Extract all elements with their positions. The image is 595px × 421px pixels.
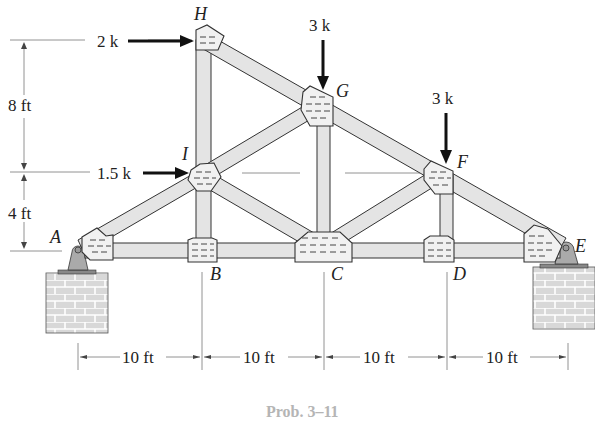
member-HB — [196, 40, 211, 248]
node-label-i: I — [181, 144, 189, 164]
load-label-i: 1.5 k — [97, 164, 132, 183]
node-label-a: A — [49, 227, 62, 247]
node-label-f: F — [456, 152, 469, 172]
node-label-d: D — [452, 264, 466, 284]
load-label-g: 3 k — [309, 16, 331, 35]
node-label-g: G — [336, 81, 349, 101]
truss-diagram: 2 k 1.5 k 3 k 3 k 8 ft 4 ft 10 ft 10 ft … — [0, 0, 595, 421]
figure-caption: Prob. 3–11 — [266, 403, 339, 420]
dim-label-8ft: 8 ft — [8, 96, 31, 115]
load-label-f: 3 k — [432, 89, 454, 108]
load-label-h: 2 k — [97, 32, 119, 51]
gusset-c — [295, 232, 352, 262]
dim-label-de: 10 ft — [486, 348, 518, 367]
dim-label-4ft: 4 ft — [8, 204, 31, 223]
dim-label-bc: 10 ft — [243, 348, 275, 367]
node-label-e: E — [574, 236, 586, 256]
node-label-h: H — [193, 4, 208, 24]
node-label-b: B — [210, 264, 221, 284]
gusset-d — [424, 236, 454, 262]
dim-label-cd: 10 ft — [363, 348, 395, 367]
dim-label-ab: 10 ft — [122, 348, 154, 367]
node-label-c: C — [331, 264, 344, 284]
